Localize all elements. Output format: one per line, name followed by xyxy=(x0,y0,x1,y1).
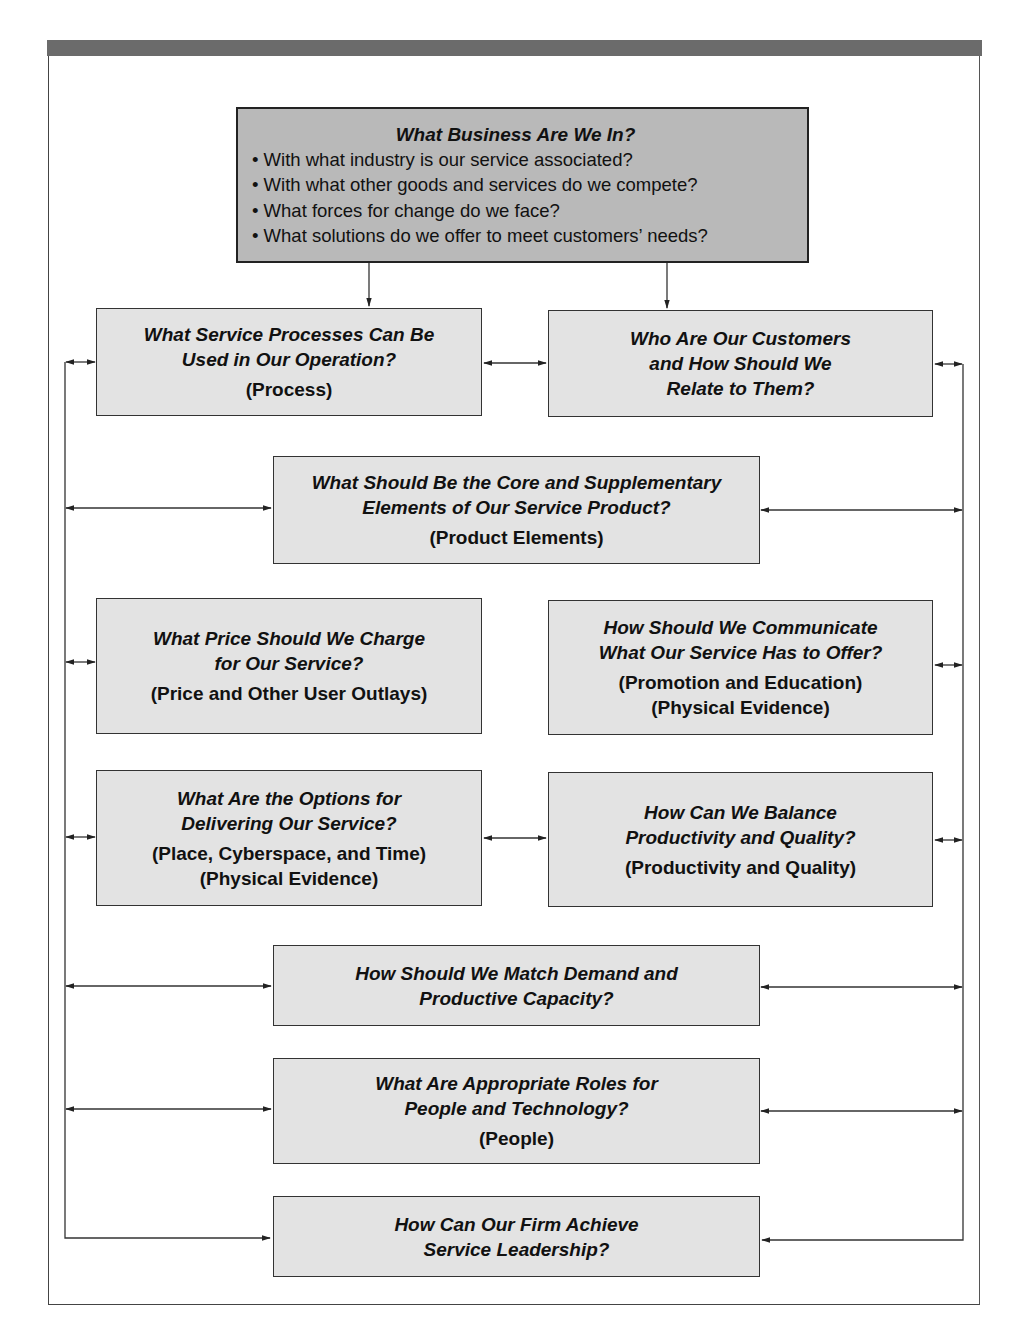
box-label: (Place, Cyberspace, and Time) xyxy=(152,841,426,866)
box-place: What Are the Options for Delivering Our … xyxy=(96,770,482,906)
box-question: How Should We Communicate xyxy=(603,615,877,640)
box-label: (Productivity and Quality) xyxy=(625,855,856,880)
box-label: (Process) xyxy=(246,377,333,402)
box-question: People and Technology? xyxy=(404,1096,628,1121)
bullet-item: • With what other goods and services do … xyxy=(252,172,698,198)
box-question: What Our Service Has to Offer? xyxy=(599,640,883,665)
bullet-item: • With what industry is our service asso… xyxy=(252,147,633,173)
box-people: What Are Appropriate Roles for People an… xyxy=(273,1058,760,1164)
box-productivity: How Can We Balance Productivity and Qual… xyxy=(548,772,933,907)
bullet-item: • What forces for change do we face? xyxy=(252,198,560,224)
box-title: What Business Are We In? xyxy=(238,122,793,147)
box-label: (Product Elements) xyxy=(429,525,603,550)
box-customers: Who Are Our Customers and How Should We … xyxy=(548,310,933,417)
box-label: (Price and Other User Outlays) xyxy=(151,681,428,706)
box-question: for Our Service? xyxy=(215,651,364,676)
box-question: Productivity and Quality? xyxy=(625,825,855,850)
box-process: What Service Processes Can Be Used in Ou… xyxy=(96,308,482,416)
box-question: How Should We Match Demand and xyxy=(355,961,678,986)
box-question: and How Should We xyxy=(649,351,831,376)
box-question: Delivering Our Service? xyxy=(181,811,396,836)
box-product-elements: What Should Be the Core and Supplementar… xyxy=(273,456,760,564)
box-demand: How Should We Match Demand and Productiv… xyxy=(273,945,760,1026)
box-label: (Physical Evidence) xyxy=(200,866,378,891)
box-label: (Physical Evidence) xyxy=(651,695,829,720)
box-leadership: How Can Our Firm Achieve Service Leaders… xyxy=(273,1196,760,1277)
box-question: What Are the Options for xyxy=(177,786,401,811)
box-question: Used in Our Operation? xyxy=(182,347,396,372)
box-price: What Price Should We Charge for Our Serv… xyxy=(96,598,482,734)
box-question: How Can We Balance xyxy=(644,800,837,825)
box-question: Elements of Our Service Product? xyxy=(362,495,670,520)
box-label: (Promotion and Education) xyxy=(619,670,863,695)
bullet-item: • What solutions do we offer to meet cus… xyxy=(252,223,708,249)
box-promotion: How Should We Communicate What Our Servi… xyxy=(548,600,933,735)
box-question: What Service Processes Can Be xyxy=(144,322,434,347)
box-what-business: What Business Are We In? • With what ind… xyxy=(236,107,809,263)
box-question: Service Leadership? xyxy=(424,1237,610,1262)
box-question: Relate to Them? xyxy=(667,376,815,401)
box-question: Productive Capacity? xyxy=(419,986,613,1011)
box-label: (People) xyxy=(479,1126,554,1151)
box-question: How Can Our Firm Achieve xyxy=(394,1212,638,1237)
box-question: Who Are Our Customers xyxy=(630,326,851,351)
box-question: What Should Be the Core and Supplementar… xyxy=(312,470,722,495)
box-question: What Price Should We Charge xyxy=(153,626,425,651)
box-question: What Are Appropriate Roles for xyxy=(375,1071,658,1096)
